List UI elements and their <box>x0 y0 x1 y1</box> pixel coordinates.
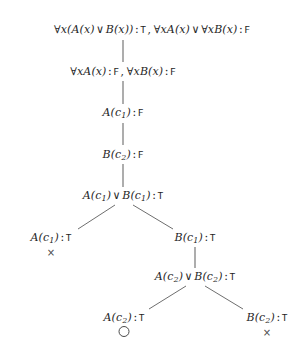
truth-value-F: F <box>138 149 144 160</box>
truth-value-F: F <box>170 66 176 77</box>
tableau-node-4: B(c2):F <box>103 149 144 164</box>
edge-n2-to-n3 <box>123 81 124 104</box>
truth-value-T: T <box>230 271 236 282</box>
tableau-node-8-branch: A(c2)∨B(c2):T <box>155 271 235 286</box>
open-branch-marker <box>119 326 130 337</box>
truth-value-F: F <box>244 24 250 35</box>
truth-value-F: F <box>113 66 119 77</box>
truth-value-T: T <box>210 232 216 243</box>
edge-n8-to-n10 <box>205 286 243 309</box>
truth-value-F: F <box>138 107 144 118</box>
edge-n1-to-n2 <box>123 40 124 62</box>
edge-n8-to-n9 <box>149 286 186 309</box>
closed-branch-marker: × <box>47 248 55 258</box>
edge-n5-to-n7 <box>133 205 173 229</box>
tableau-node-7: B(c1):T <box>175 232 216 247</box>
tableau-node-10-leaf: B(c2):T <box>247 312 288 327</box>
tableau-node-9-leaf: A(c2):T <box>104 312 145 327</box>
truth-value-T: T <box>158 190 164 201</box>
tableau-node-3: A(c1):F <box>103 107 144 122</box>
tableau-node-6-leaf: A(c1):T <box>31 232 72 247</box>
tableau-node-root: ∀x(A(x)∨B(x)):T, ∀xA(x)∨∀xB(x):F <box>54 24 250 36</box>
tableau-node-2: ∀xA(x):F, ∀xB(x):F <box>70 66 175 78</box>
closed-branch-marker: × <box>263 328 271 338</box>
edge-n3-to-n4 <box>123 123 124 145</box>
truth-value-T: T <box>139 312 145 323</box>
edge-n7-to-n8 <box>195 247 196 268</box>
truth-value-T: T <box>66 232 72 243</box>
truth-value-T: T <box>282 312 288 323</box>
tableau-figure: ∀x(A(x)∨B(x)):T, ∀xA(x)∨∀xB(x):F ∀xA(x):… <box>0 0 305 362</box>
tableau-node-5-branch: A(c1)∨B(c1):T <box>83 190 163 205</box>
edge-n5-to-n6 <box>78 205 115 229</box>
branch-edges <box>0 0 305 362</box>
edge-n4-to-n5 <box>123 164 124 187</box>
